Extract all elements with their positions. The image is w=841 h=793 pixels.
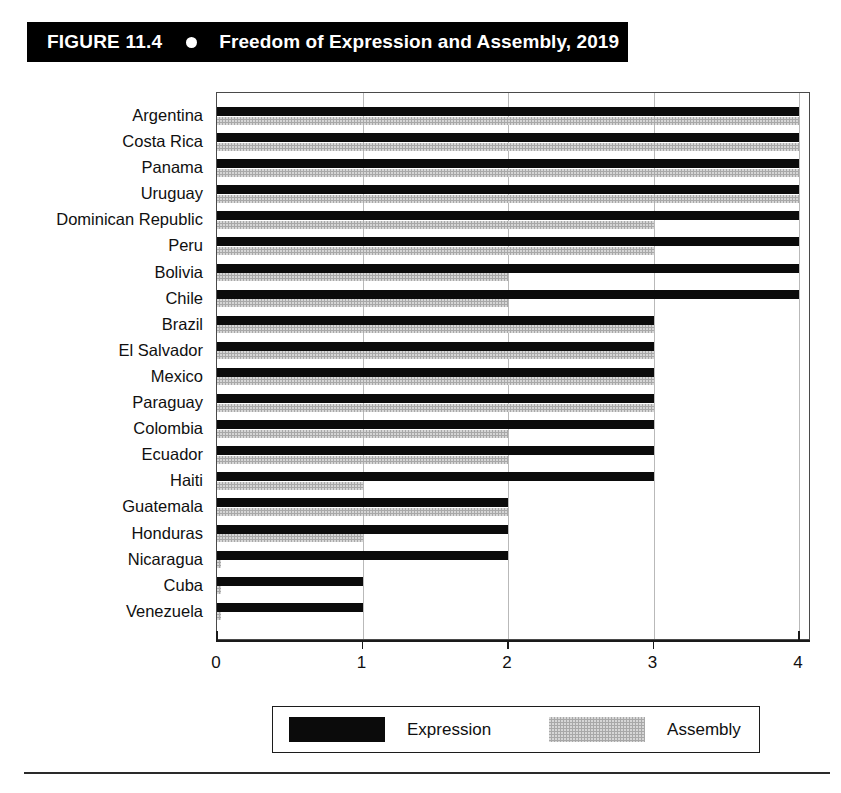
bar-expression (217, 264, 799, 273)
bar-group-uruguay (217, 185, 809, 211)
y-axis-label-text: Uruguay (141, 184, 203, 202)
y-axis-label-colombia: Colombia (0, 419, 210, 445)
figure-title-banner: FIGURE 11.4 Freedom of Expression and As… (27, 22, 628, 62)
legend-item-assembly: Assembly (549, 717, 741, 742)
y-axis-label-cuba: Cuba (0, 576, 210, 602)
x-axis-tick-label-4: 4 (793, 653, 802, 673)
y-axis-label-el-salvador: El Salvador (0, 341, 210, 367)
x-axis-tick-2 (507, 640, 509, 649)
bar-expression (217, 577, 363, 586)
bar-group-venezuela (217, 603, 809, 629)
bar-expression (217, 603, 363, 612)
y-axis-label-text: Chile (165, 289, 203, 307)
chart-plot-frame (216, 92, 810, 640)
bar-group-paraguay (217, 394, 809, 420)
filled-circle-icon (186, 37, 197, 48)
y-axis-label-mexico: Mexico (0, 367, 210, 393)
bar-assembly (217, 482, 363, 490)
bar-assembly (217, 430, 508, 438)
bar-assembly (217, 351, 654, 359)
y-axis-label-honduras: Honduras (0, 524, 210, 550)
bar-group-costa-rica (217, 133, 809, 159)
y-axis-label-nicaragua: Nicaragua (0, 550, 210, 576)
bar-expression (217, 316, 654, 325)
y-axis-label-text: Nicaragua (128, 550, 203, 568)
bar-assembly (217, 195, 799, 203)
bar-expression (217, 394, 654, 403)
y-axis-label-text: Honduras (131, 524, 203, 542)
bar-assembly (217, 534, 363, 542)
y-axis-label-paraguay: Paraguay (0, 393, 210, 419)
bar-expression (217, 107, 799, 116)
bar-assembly (217, 560, 221, 568)
y-axis-label-text: Costa Rica (122, 132, 203, 150)
y-axis-label-text: Colombia (133, 419, 203, 437)
x-axis-tick-label-2: 2 (502, 653, 511, 673)
bar-expression (217, 525, 508, 534)
y-axis-label-text: Venezuela (126, 602, 203, 620)
bar-expression (217, 185, 799, 194)
bar-expression (217, 420, 654, 429)
legend-item-expression: Expression (289, 717, 491, 742)
bar-group-argentina (217, 107, 809, 133)
bars-layer (217, 107, 809, 629)
bar-expression (217, 133, 799, 142)
x-axis-tick-4 (798, 631, 800, 640)
bar-assembly (217, 325, 654, 333)
y-axis-label-panama: Panama (0, 158, 210, 184)
x-axis-tick-label-0: 0 (211, 653, 220, 673)
bar-group-chile (217, 290, 809, 316)
bar-assembly (217, 508, 508, 516)
y-axis-label-text: Dominican Republic (56, 210, 203, 228)
x-axis-tick-0 (216, 631, 218, 640)
y-axis-label-text: Mexico (151, 367, 203, 385)
bar-group-mexico (217, 368, 809, 394)
y-axis-label-chile: Chile (0, 289, 210, 315)
bar-expression (217, 551, 508, 560)
x-axis-tick-label-1: 1 (357, 653, 366, 673)
y-axis-label-dominican-republic: Dominican Republic (0, 210, 210, 236)
bar-assembly (217, 586, 221, 594)
bar-expression (217, 368, 654, 377)
x-axis-tick-1 (362, 640, 364, 649)
bar-group-ecuador (217, 446, 809, 472)
y-axis-label-text: Ecuador (142, 445, 203, 463)
bar-group-honduras (217, 525, 809, 551)
figure-number: FIGURE 11.4 (47, 31, 162, 53)
bar-assembly (217, 299, 508, 307)
y-axis-label-costa-rica: Costa Rica (0, 132, 210, 158)
bar-expression (217, 211, 799, 220)
bar-group-bolivia (217, 264, 809, 290)
y-axis-label-argentina: Argentina (0, 106, 210, 132)
bar-group-peru (217, 237, 809, 263)
bar-assembly (217, 143, 799, 151)
bar-assembly (217, 456, 508, 464)
y-axis-label-haiti: Haiti (0, 471, 210, 497)
legend-label-assembly: Assembly (667, 720, 741, 740)
x-axis: 01234 (216, 640, 810, 690)
bar-expression (217, 159, 799, 168)
legend-swatch-expression-icon (289, 717, 385, 742)
y-axis-label-text: Paraguay (132, 393, 203, 411)
y-axis-label-text: Cuba (164, 576, 203, 594)
y-axis-label-text: Haiti (170, 471, 203, 489)
x-axis-line (216, 640, 810, 642)
chart-legend: Expression Assembly (272, 706, 760, 753)
y-axis-label-venezuela: Venezuela (0, 602, 210, 628)
bar-group-cuba (217, 577, 809, 603)
bar-expression (217, 237, 799, 246)
bar-group-el-salvador (217, 342, 809, 368)
bar-assembly (217, 247, 654, 255)
bar-assembly (217, 404, 654, 412)
bar-group-guatemala (217, 498, 809, 524)
x-axis-tick-3 (653, 640, 655, 649)
bar-expression (217, 446, 654, 455)
bar-expression (217, 290, 799, 299)
y-axis-label-bolivia: Bolivia (0, 263, 210, 289)
y-axis-label-ecuador: Ecuador (0, 445, 210, 471)
bar-group-haiti (217, 472, 809, 498)
y-axis-label-text: Peru (168, 236, 203, 254)
bar-group-panama (217, 159, 809, 185)
bar-assembly (217, 377, 654, 385)
bar-group-nicaragua (217, 551, 809, 577)
